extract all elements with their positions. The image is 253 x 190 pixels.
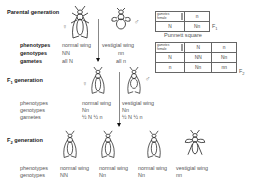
punnett-corner-cell: gametesfemale [156, 43, 185, 53]
punnett-row-header: N [156, 22, 185, 32]
punnett-col-header: n [212, 43, 237, 53]
normal-wing-fly-icon [98, 130, 118, 160]
label-gametes: gametes [20, 114, 41, 120]
parental-female-gametes: all N [62, 58, 73, 64]
punnett-row-header: n [156, 63, 185, 73]
punnett-row-header: N [156, 53, 185, 63]
f1-female-phenotype: normal wing [82, 100, 111, 106]
vestigial-wing-fly-icon [108, 8, 134, 32]
punnett-cell: Nn [185, 22, 210, 32]
parental-male-gametes: all n [116, 58, 126, 64]
f2-offspring-phenotype: normal wing [99, 165, 128, 171]
punnett-f1-label: F1 [212, 23, 218, 31]
punnett-square-f2: gametesfemale N n N NN Nn n Nn nn [155, 42, 237, 73]
down-arrow-icon [96, 58, 100, 62]
parental-male-phenotype: vestigial wing [102, 42, 134, 48]
punnett-cell: nn [212, 63, 237, 73]
punnett-f2-label: F2 [239, 68, 245, 76]
down-arrow-icon [117, 123, 121, 127]
punnett-square-f1: gametesfemale n N Nn [155, 11, 210, 32]
label-phenotypes: phenotypes [20, 165, 48, 171]
normal-wing-fly-icon [88, 67, 108, 95]
punnett-corner-cell: gametesfemale [156, 12, 185, 22]
parental-male-genotype: nn [118, 50, 124, 56]
parental-female-phenotype: normal wing [62, 42, 91, 48]
punnett-cell: Nn [212, 53, 237, 63]
f1-female-genotype: Nn [82, 107, 89, 113]
f2-offspring-phenotype: vestigial wing [176, 165, 208, 171]
f2-offspring-genotype: Nn [138, 172, 145, 178]
f2-offspring-phenotype: normal wing [138, 165, 167, 171]
label-phenotypes: phenotypes [20, 100, 48, 106]
punnett-col-header: N [185, 43, 212, 53]
normal-wing-fly-icon [144, 130, 164, 160]
f2-offspring-genotype: Nn [99, 172, 106, 178]
f2-offspring-phenotype: normal wing [60, 165, 89, 171]
label-genotypes: genotypes [20, 172, 45, 178]
f2-generation-title: F2 generation [7, 137, 43, 145]
vestigial-wing-fly-icon [182, 130, 208, 160]
f1-male-genotype: Nn [122, 107, 129, 113]
label-genotypes: genotypes [20, 50, 47, 56]
male-symbol: ♂ [145, 75, 150, 82]
label-genotypes: genotypes [20, 107, 45, 113]
f1-male-phenotype: vestigial wing [122, 100, 154, 106]
female-symbol: ♀ [82, 80, 87, 87]
parental-generation-title: Parental generation [7, 9, 59, 15]
f1-male-gametes: ½ N ½ n [122, 114, 142, 120]
male-symbol: ♂ [134, 18, 139, 25]
normal-wing-fly-icon [60, 130, 80, 160]
punnett-cell: NN [185, 53, 212, 63]
label-gametes: gametes [20, 58, 42, 64]
label-phenotypes: phenotypes [20, 42, 50, 48]
f1-female-gametes: ½ N ½ n [82, 114, 102, 120]
punnett-caption: Punnett square [164, 32, 202, 38]
normal-wing-fly-icon [68, 6, 92, 40]
f2-offspring-genotype: NN [60, 172, 68, 178]
f1-generation-title: F1 generation [7, 77, 43, 85]
punnett-cell: Nn [185, 63, 212, 73]
parental-female-genotype: NN [62, 50, 70, 56]
female-symbol: ♀ [62, 23, 67, 30]
f2-offspring-genotype: nn [176, 172, 182, 178]
normal-wing-fly-icon [124, 67, 144, 95]
punnett-col-header: n [185, 12, 210, 22]
